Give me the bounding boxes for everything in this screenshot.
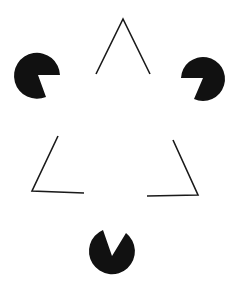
kanizsa-figure: [0, 0, 237, 291]
